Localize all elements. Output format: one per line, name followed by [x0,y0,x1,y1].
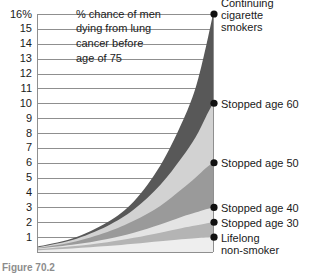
annotation-line: dying from lung [76,23,151,34]
series-label-line: Continuing [221,0,274,9]
y-axis-tick-label: 1 [0,232,32,243]
stacked-area-chart [0,0,324,273]
series-label-line: Lifelong [221,232,260,244]
series-label-line: cigarette [221,9,263,21]
y-axis-tick-label: 15 [0,23,32,34]
series-end-marker [210,159,217,166]
y-axis-tick-label: 2 [0,217,32,228]
annotation-line: % chance of men [76,9,161,20]
y-axis-tick-label: 10 [0,98,32,109]
series-end-marker [210,234,217,241]
y-axis-tick-label: 5 [0,172,32,183]
y-axis-tick-label: 11 [0,83,32,94]
annotation-line: age of 75 [76,53,122,64]
y-axis-tick-label: 13 [0,53,32,64]
y-axis-tick-label: 16% [0,9,32,20]
series-end-marker [210,10,217,17]
y-axis-tick-label: 9 [0,113,32,124]
series-end-marker [210,204,217,211]
series-label-line: Stopped age 60 [221,98,299,110]
y-axis-tick-label: 14 [0,38,32,49]
y-axis-tick-label: 12 [0,68,32,79]
y-axis-tick-label: 6 [0,157,32,168]
series-label-line: Stopped age 40 [221,202,299,214]
series-end-marker [210,100,217,107]
series-end-marker [210,219,217,226]
y-axis-tick-label: 3 [0,202,32,213]
series-label-line: Stopped age 50 [221,157,299,169]
figure-lung-cancer-risk: 16%151413121110987654321 % chance of men… [0,0,324,273]
annotation-line: cancer before [76,38,143,49]
series-label-line: smokers [221,21,263,33]
series-label-line: Stopped age 30 [221,217,299,229]
y-axis-tick-label: 4 [0,187,32,198]
y-axis-tick-label: 8 [0,128,32,139]
y-axis-tick-label: 7 [0,142,32,153]
series-label-line: non-smoker [221,244,279,256]
figure-caption: Figure 70.2 [2,263,55,273]
